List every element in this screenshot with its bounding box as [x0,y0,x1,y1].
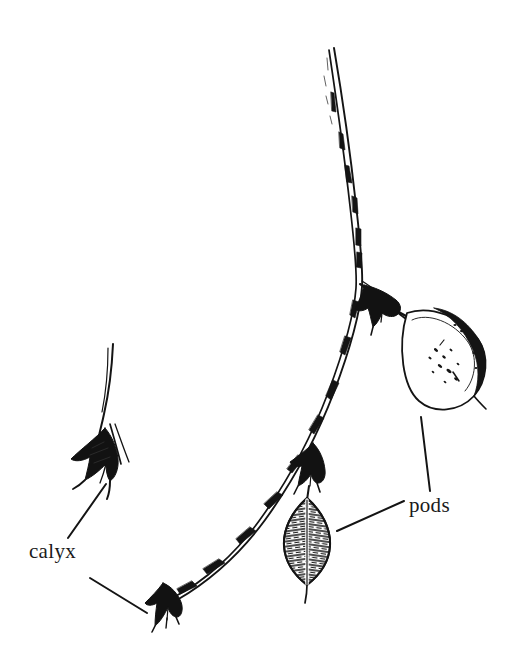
leader-calyx-lower [90,578,147,613]
leader-calyx-upper [68,484,106,538]
lower-pod [278,494,336,603]
leader-pods-lower [337,501,404,531]
bottom-calyx [145,583,182,632]
main-stem [174,48,362,600]
label-calyx: calyx [29,541,76,562]
detached-calyx [71,344,129,499]
lower-pod-hatch-right [304,494,336,590]
upper-pod-calyx [355,285,406,335]
botanical-illustration-figure: calyx pods [0,0,507,663]
leader-lines [68,417,430,613]
lower-pod-calyx [290,443,325,500]
upper-pod [402,308,486,410]
illustration-canvas [0,0,507,663]
label-pods: pods [409,495,450,516]
lower-pod-hatch-left [278,494,310,590]
drawing-ink [68,48,486,632]
leader-pods-upper [421,417,430,491]
stem-shading [177,92,362,594]
